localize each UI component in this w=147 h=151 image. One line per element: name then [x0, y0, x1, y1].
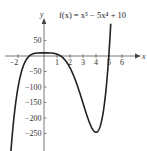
- chart-title: f(x) = x⁵ − 5x⁴ + 10: [59, 10, 126, 20]
- y-axis-label: y: [39, 10, 44, 19]
- function-plot: x y −2123456 50−50−100−150−200−250 f(x) …: [0, 0, 147, 151]
- x-tick-label: 1: [55, 58, 59, 67]
- x-tick-label: 4: [94, 58, 98, 67]
- y-tick-label: −50: [29, 67, 42, 76]
- y-tick-label: 50: [34, 36, 42, 45]
- y-tick-label: −150: [25, 98, 42, 107]
- y-tick-label: −200: [25, 114, 42, 123]
- y-tick-label: −100: [25, 83, 42, 92]
- y-ticks: 50−50−100−150−200−250: [25, 36, 47, 138]
- x-axis-label: x: [141, 52, 146, 61]
- x-tick-label: 6: [120, 58, 124, 67]
- y-tick-label: −250: [25, 129, 42, 138]
- x-axis-arrow-icon: [135, 54, 141, 59]
- x-tick-label: −2: [10, 58, 19, 67]
- x-tick-label: 3: [81, 58, 85, 67]
